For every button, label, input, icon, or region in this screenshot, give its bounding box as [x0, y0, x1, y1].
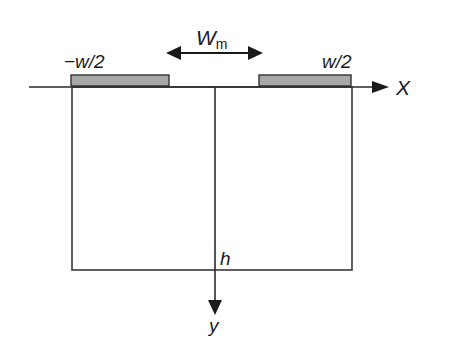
- y-axis-arrowhead-icon: [208, 300, 222, 315]
- height-label: h: [220, 248, 231, 269]
- gap-arrow-right-icon: [248, 46, 263, 60]
- left-electrode: [71, 75, 169, 86]
- diagram-canvas: Wm −w/2 w/2 X h y: [0, 0, 451, 353]
- right-electrode: [259, 75, 351, 86]
- x-axis-label: X: [395, 76, 411, 99]
- gap-arrow-left-icon: [166, 46, 181, 60]
- right-electrode-label: w/2: [322, 51, 352, 72]
- substrate-box: [72, 87, 352, 270]
- x-axis-arrowhead-icon: [372, 81, 389, 93]
- left-electrode-label: −w/2: [64, 51, 105, 72]
- y-axis-label: y: [207, 315, 220, 336]
- gap-label: Wm: [196, 26, 228, 52]
